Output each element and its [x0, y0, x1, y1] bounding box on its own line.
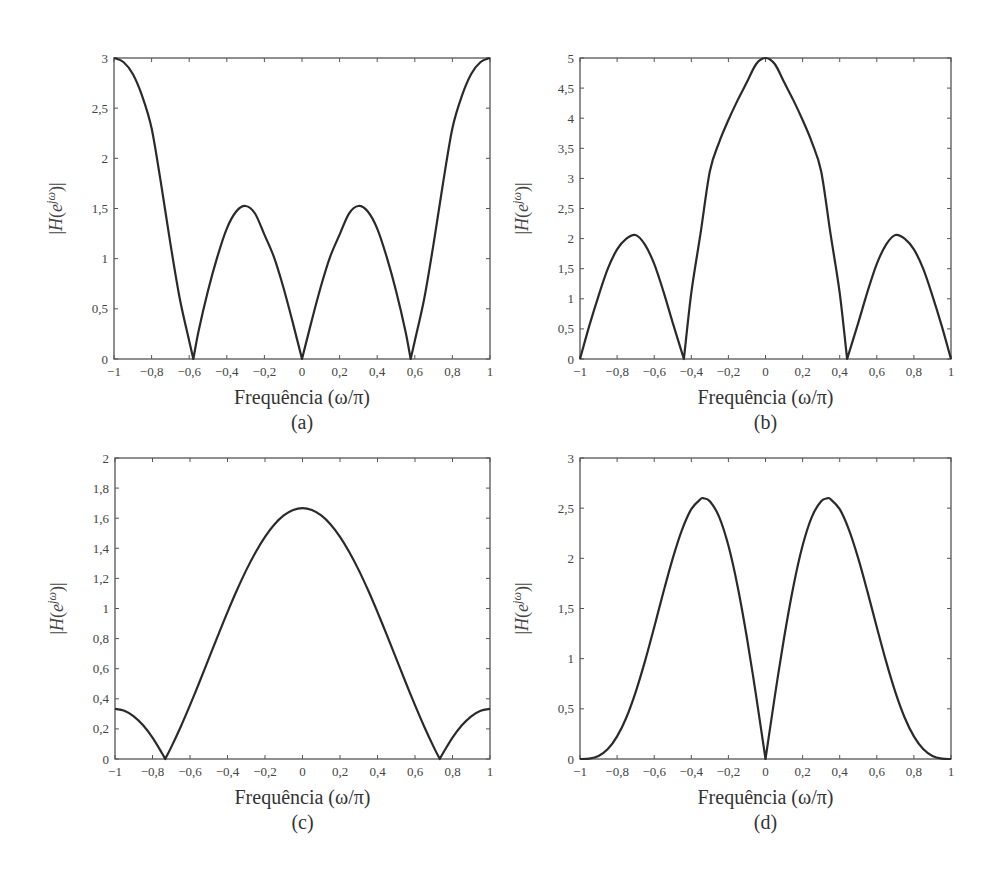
- y-tick-label: 3: [102, 51, 109, 66]
- panel-label-c: (c): [291, 811, 313, 834]
- y-tick-label: 2,5: [92, 101, 108, 116]
- y-tick-label: 1,5: [558, 261, 574, 276]
- x-tick-label: 0: [299, 764, 306, 779]
- chart-panel-d: −1−0,8−0,6−0,4−0,200,20,40,60,8100,511,5…: [510, 451, 954, 835]
- x-tick-label: 0,2: [332, 764, 348, 779]
- y-tick-label: 5: [568, 51, 575, 66]
- x-tick-label: −0,6: [178, 764, 202, 779]
- y-tick-label: 0,4: [93, 691, 110, 706]
- y-tick-label: 0,2: [93, 721, 109, 736]
- x-tick-label: 0,2: [331, 364, 347, 379]
- x-tick-label: −1: [108, 764, 122, 779]
- y-tick-label: 1: [102, 251, 109, 266]
- y-tick-label: 3,5: [558, 141, 574, 156]
- x-tick-label: 0,6: [869, 764, 886, 779]
- plot-frame: [114, 58, 490, 359]
- y-axis-label: |H(ejω)|: [44, 182, 67, 234]
- x-axis-label: Frequência (ω/π): [698, 786, 834, 809]
- x-tick-label: 1: [948, 364, 955, 379]
- x-tick-label: 0,8: [444, 764, 460, 779]
- magnitude-response-curve: [115, 508, 490, 759]
- x-axis-label: Frequência (ω/π): [234, 386, 370, 409]
- x-tick-label: −1: [107, 364, 121, 379]
- x-tick-label: 0,8: [444, 364, 460, 379]
- x-tick-label: 0: [762, 764, 769, 779]
- y-tick-label: 3: [568, 171, 575, 186]
- x-tick-label: 0,6: [407, 764, 424, 779]
- panel-label-d: (d): [754, 811, 777, 834]
- x-tick-label: −1: [573, 364, 587, 379]
- magnitude-response-curve: [580, 58, 951, 359]
- x-tick-label: 0,2: [794, 764, 810, 779]
- magnitude-response-curve: [114, 58, 490, 359]
- y-tick-label: 2: [568, 231, 575, 246]
- x-axis-label: Frequência (ω/π): [235, 786, 371, 809]
- y-tick-label: 2,5: [558, 201, 574, 216]
- y-tick-label: 1,8: [93, 481, 109, 496]
- x-tick-label: 0,6: [869, 364, 886, 379]
- y-tick-label: 1,4: [93, 541, 110, 556]
- y-tick-label: 4: [568, 111, 575, 126]
- x-axis-label: Frequência (ω/π): [698, 386, 834, 409]
- x-tick-label: −0,8: [140, 364, 164, 379]
- x-tick-label: −0,2: [253, 364, 277, 379]
- y-tick-label: 1,6: [93, 511, 110, 526]
- y-tick-label: 1,5: [92, 201, 108, 216]
- x-tick-label: −0,6: [177, 364, 201, 379]
- figure-canvas: −1−0,8−0,6−0,4−0,200,20,40,60,8100,511,5…: [0, 0, 998, 871]
- x-tick-label: 0: [762, 364, 769, 379]
- x-tick-label: −0,4: [680, 364, 704, 379]
- x-tick-label: 0,8: [906, 764, 922, 779]
- y-tick-label: 2: [568, 551, 575, 566]
- plot-frame: [580, 58, 951, 359]
- y-tick-label: 4,5: [558, 81, 574, 96]
- x-tick-label: −1: [573, 764, 587, 779]
- y-tick-label: 0,5: [558, 701, 574, 716]
- y-tick-label: 1: [568, 651, 575, 666]
- x-tick-label: 0: [299, 364, 306, 379]
- x-tick-label: −0,2: [717, 364, 741, 379]
- y-tick-label: 0: [102, 352, 109, 367]
- chart-panel-a: −1−0,8−0,6−0,4−0,200,20,40,60,8100,511,5…: [44, 51, 493, 435]
- chart-panel-b: −1−0,8−0,6−0,4−0,200,20,40,60,8100,511,5…: [510, 51, 954, 435]
- y-tick-label: 2: [103, 451, 110, 466]
- plot-frame: [115, 458, 490, 759]
- y-tick-label: 2: [102, 151, 109, 166]
- y-tick-label: 0,5: [92, 301, 108, 316]
- y-tick-label: 0: [103, 752, 110, 767]
- x-tick-label: 0,4: [832, 764, 849, 779]
- y-tick-label: 1,5: [558, 601, 574, 616]
- x-tick-label: −0,6: [642, 364, 666, 379]
- y-tick-label: 3: [568, 451, 575, 466]
- y-tick-label: 0: [568, 752, 575, 767]
- x-tick-label: −0,2: [253, 764, 277, 779]
- x-tick-label: 1: [948, 764, 955, 779]
- y-tick-label: 1: [568, 291, 575, 306]
- x-tick-label: −0,8: [605, 364, 629, 379]
- x-tick-label: 0,4: [832, 364, 849, 379]
- x-tick-label: 0,4: [369, 364, 386, 379]
- x-tick-label: −0,6: [642, 764, 666, 779]
- y-tick-label: 2,5: [558, 501, 574, 516]
- x-tick-label: −0,8: [141, 764, 165, 779]
- y-axis-label: |H(ejω)|: [45, 582, 68, 634]
- y-tick-label: 1,2: [93, 571, 109, 586]
- y-tick-label: 0: [568, 352, 575, 367]
- x-tick-label: −0,2: [717, 764, 741, 779]
- y-tick-label: 0,8: [93, 631, 109, 646]
- x-tick-label: 0,2: [794, 364, 810, 379]
- panel-label-b: (b): [754, 411, 777, 434]
- y-axis-label: |H(ejω)|: [510, 182, 533, 234]
- panel-label-a: (a): [291, 411, 313, 434]
- magnitude-response-curve: [580, 498, 951, 759]
- x-tick-label: −0,8: [605, 764, 629, 779]
- y-tick-label: 1: [103, 601, 110, 616]
- plot-frame: [580, 458, 951, 759]
- chart-panel-c: −1−0,8−0,6−0,4−0,200,20,40,60,8100,20,40…: [45, 451, 493, 835]
- x-tick-label: 0,8: [906, 364, 922, 379]
- x-tick-label: −0,4: [215, 364, 239, 379]
- x-tick-label: 0,6: [407, 364, 424, 379]
- x-tick-label: −0,4: [216, 764, 240, 779]
- x-tick-label: 1: [487, 764, 494, 779]
- y-tick-label: 0,5: [558, 321, 574, 336]
